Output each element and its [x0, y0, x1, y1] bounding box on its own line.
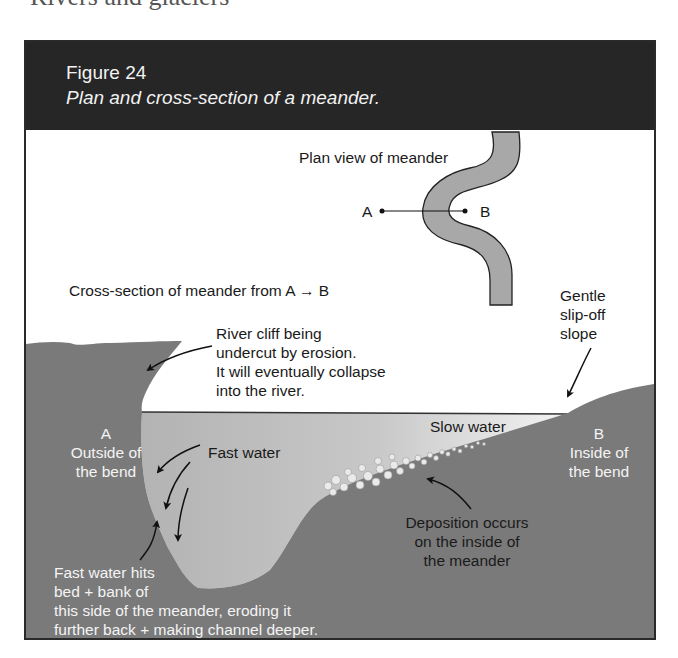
slip-off-line-2: slip-off: [560, 305, 606, 324]
erosion-line-4: further back + making channel deeper.: [54, 620, 318, 639]
slow-water-label: Slow water: [430, 417, 506, 436]
slip-off-line-3: slope: [560, 324, 606, 343]
deposition-note: Deposition occurs on the inside of the m…: [392, 513, 542, 570]
river-cliff-line-3: It will eventually collapse: [216, 362, 386, 381]
erosion-line-3: this side of the meander, eroding it: [54, 601, 318, 620]
deposition-line-2: on the inside of: [392, 532, 542, 551]
slip-off-line-1: Gentle: [560, 286, 606, 305]
point-a-label: A: [56, 424, 156, 443]
plan-point-a: A: [362, 202, 372, 221]
erosion-line-2: bed + bank of: [54, 582, 318, 601]
deposition-line-3: the meander: [392, 551, 542, 570]
inside-bend-line-2: the bend: [554, 462, 644, 481]
erosion-line-1: Fast water hits: [54, 563, 318, 582]
outside-bend-line-1: Outside of: [56, 443, 156, 462]
cross-section-title: Cross-section of meander from A → B: [69, 281, 329, 300]
plan-view-title: Plan view of meander: [299, 148, 448, 167]
deposition-line-1: Deposition occurs: [392, 513, 542, 532]
erosion-note: Fast water hits bed + bank of this side …: [54, 563, 318, 639]
slip-off-slope-note: Gentle slip-off slope: [560, 286, 606, 343]
river-cliff-line-1: River cliff being: [216, 324, 386, 343]
river-cliff-note: River cliff being undercut by erosion. I…: [216, 324, 386, 400]
plan-point-b: B: [480, 202, 490, 221]
slip-off-arrow-icon: [568, 348, 591, 396]
outside-bend-label: A Outside of the bend: [56, 424, 156, 481]
river-cliff-line-4: into the river.: [216, 381, 386, 400]
fast-water-label: Fast water: [208, 443, 280, 462]
river-cliff-line-2: undercut by erosion.: [216, 343, 386, 362]
point-b-label: B: [554, 424, 644, 443]
inside-bend-line-1: Inside of: [554, 443, 644, 462]
inside-bend-label: B Inside of the bend: [554, 424, 644, 481]
outside-bend-line-2: the bend: [56, 462, 156, 481]
